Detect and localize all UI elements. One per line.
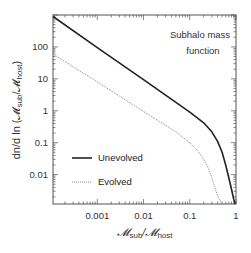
y-axis-label: dn/d ln (𝓜sub/𝓜host) — [10, 61, 24, 160]
x-axis-label: 𝓜sub/𝓜host — [117, 226, 173, 240]
legend-label-unevolved: Unevolved — [98, 152, 143, 163]
axis-ticks — [53, 15, 236, 204]
y-tick-labels: 1001010.10.01 — [30, 41, 49, 180]
x-tick-label: 0.1 — [183, 210, 196, 221]
y-tick-label: 10 — [37, 73, 48, 84]
subhalo-mass-function-chart: 0.0010.010.11 1001010.10.01 Subhalo mass… — [0, 0, 251, 253]
x-tick-label: 0.01 — [134, 210, 153, 221]
y-tick-label: 0.01 — [30, 169, 49, 180]
x-tick-label: 0.001 — [85, 210, 109, 221]
y-tick-label: 0.1 — [35, 137, 48, 148]
legend: Unevolved Evolved — [72, 152, 143, 187]
x-tick-labels: 0.0010.010.11 — [85, 210, 238, 221]
legend-label-evolved: Evolved — [98, 176, 132, 187]
x-tick-label: 1 — [233, 210, 238, 221]
y-tick-label: 100 — [32, 41, 48, 52]
annotation-line-2: function — [186, 45, 219, 56]
annotation-line-1: Subhalo mass — [170, 29, 230, 40]
plot-frame — [53, 15, 236, 204]
y-tick-label: 1 — [43, 105, 48, 116]
